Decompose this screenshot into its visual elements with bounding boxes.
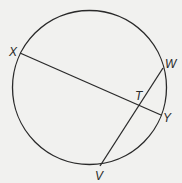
point-label-w: W [165,58,176,70]
circle [13,11,167,165]
diagram-canvas: X W T Y V [0,0,182,183]
diagram-svg [0,0,182,183]
point-label-v: V [95,170,103,182]
chord-xy [20,53,161,115]
point-label-x: X [9,46,17,58]
point-label-y: Y [163,112,171,124]
point-label-t: T [135,90,142,102]
